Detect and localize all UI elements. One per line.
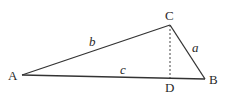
vertex-c-label: C [165,8,174,23]
triangle-diagram: A B C D a b c [0,0,226,94]
foot-d-label: D [165,80,174,94]
side-c-line [22,75,205,79]
side-b-label: b [89,34,96,49]
vertex-a-label: A [8,68,18,83]
side-b-line [22,25,170,75]
side-a-line [170,25,205,79]
side-a-label: a [192,40,199,55]
vertex-b-label: B [209,72,218,87]
side-c-label: c [120,62,126,77]
